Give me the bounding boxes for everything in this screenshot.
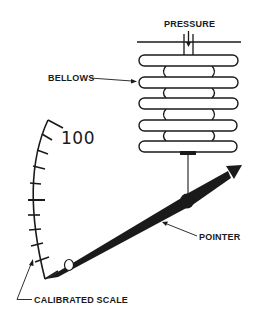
bellows-leader-arrow [90,78,137,84]
calibrated-scale-label: CALIBRATED SCALE [34,295,128,305]
pressure-label: PRESSURE [164,19,215,29]
calibrated-scale [28,120,63,279]
pressure-inlet [137,31,241,55]
pointer-label: POINTER [199,232,241,242]
pointer-leader-arrow [162,222,197,237]
bellows [139,55,238,152]
pointer [46,165,242,279]
bellows-label: BELLOWS [48,73,94,83]
pivot-icon [180,194,194,209]
connecting-rod [180,151,196,196]
scale-max-label: 100 [61,128,95,148]
scale-leader-arrow [17,259,34,300]
bellows-gauge-diagram: PRESSURE BELLOWS 100 [0,0,259,321]
